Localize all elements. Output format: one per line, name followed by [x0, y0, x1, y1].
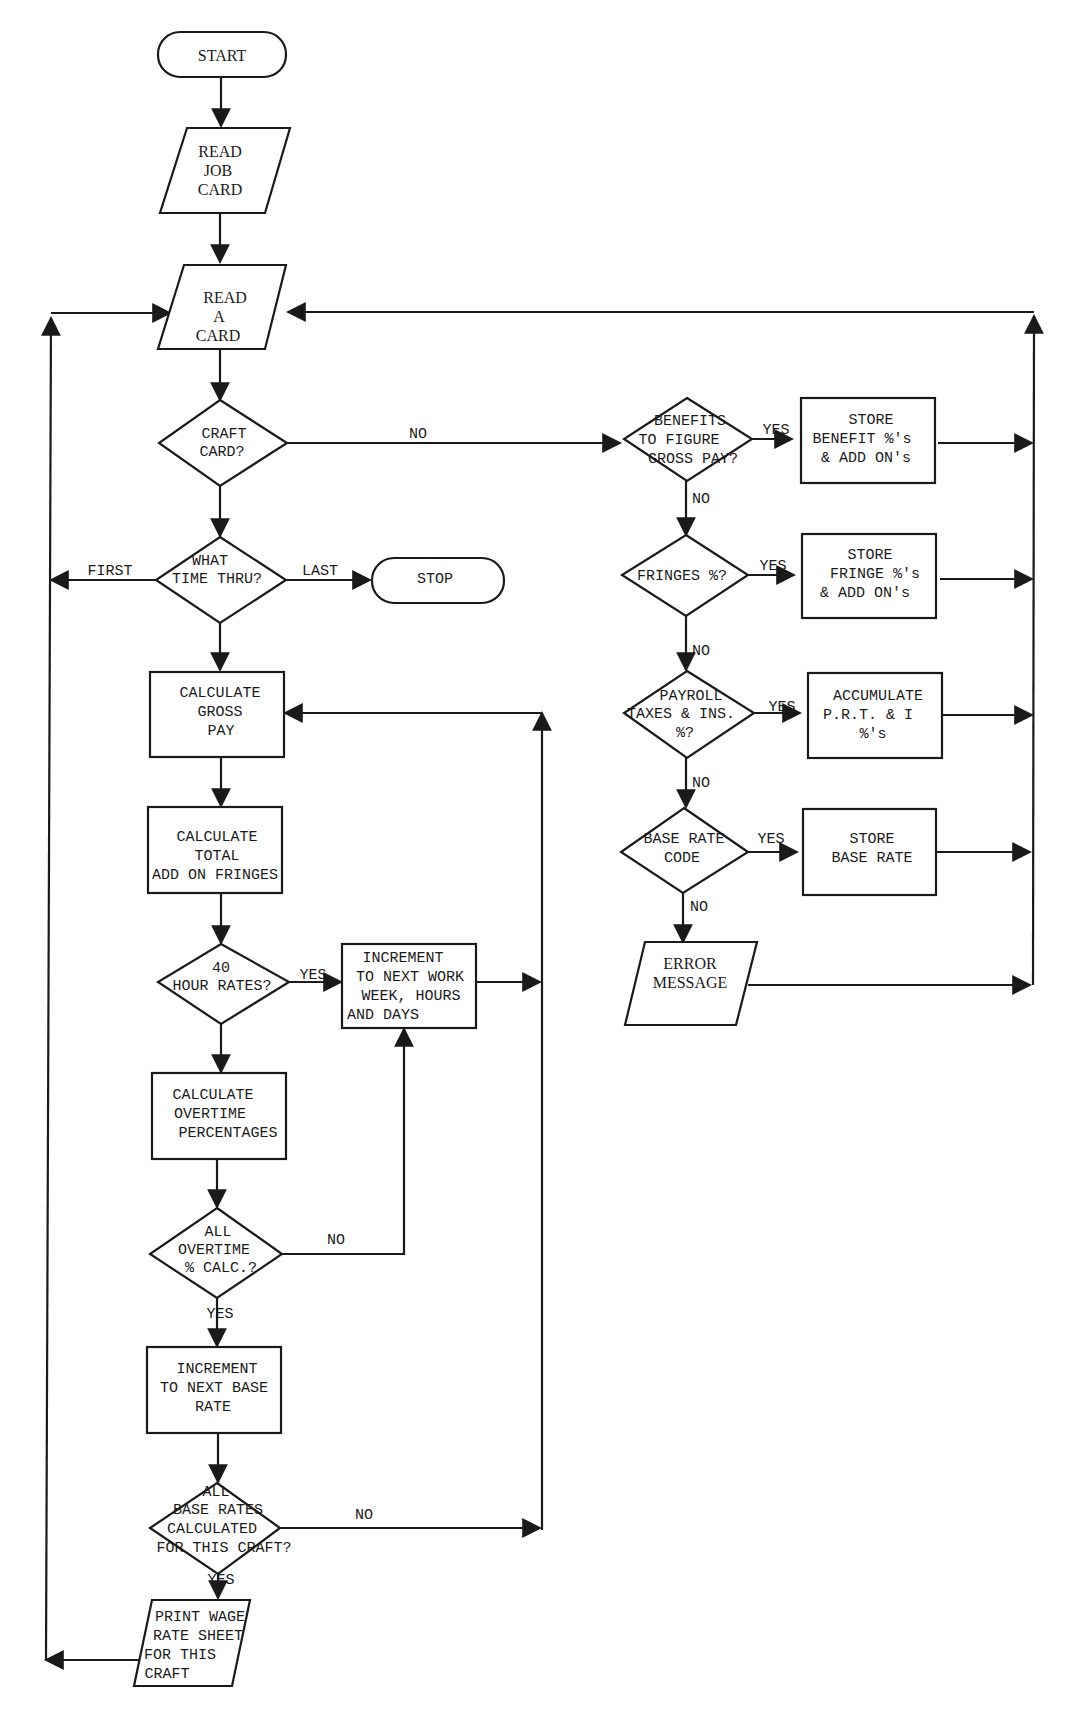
node-storebenefit-line2: BENEFIT %'s: [812, 431, 911, 448]
node-stop-text: STOP: [417, 571, 453, 588]
node-print-wage-sheet: PRINT WAGE RATE SHEET FOR THIS CRAFT: [134, 1600, 250, 1686]
node-fringes-line1: FRINGES %?: [637, 568, 727, 585]
node-what-time-line1: WHAT: [192, 553, 228, 570]
label-fringes-yes: YES: [759, 558, 786, 575]
node-benefits-line2: TO FIGURE: [638, 432, 719, 449]
label-overtime-yes: YES: [206, 1306, 233, 1323]
node-error-line2: MESSAGE: [653, 974, 728, 991]
node-forty-line2: HOUR RATES?: [172, 978, 271, 995]
node-benefits-line3: GROSS PAY?: [648, 451, 738, 468]
node-read-job-card: READ JOB CARD: [160, 128, 290, 213]
node-allbase-line2: BASE RATES: [173, 1502, 263, 1519]
label-last: LAST: [302, 563, 338, 580]
node-benefits-gross-pay[interactable]: BENEFITS TO FIGURE GROSS PAY?: [624, 398, 752, 481]
node-total-line1: CALCULATE: [176, 829, 257, 846]
node-print-line3: FOR THIS: [144, 1647, 216, 1664]
node-gross-line2: GROSS: [197, 704, 242, 721]
node-incweek-line2: TO NEXT WORK: [356, 969, 464, 986]
node-read-job-card-line3: CARD: [198, 181, 242, 198]
edge-right-return-vertical: [1033, 316, 1034, 985]
node-read-a-card: READ A CARD: [158, 265, 286, 349]
node-read-job-card-line2: JOB: [204, 162, 232, 179]
node-increment-base-rate: INCREMENT TO NEXT BASE RATE: [147, 1347, 281, 1433]
node-read-job-card-line1: READ: [198, 143, 242, 160]
node-increment-work-week: INCREMENT TO NEXT WORK WEEK, HOURS AND D…: [342, 944, 476, 1028]
node-allovertime-line1: ALL: [204, 1224, 231, 1241]
node-craft-card-line1: CRAFT: [201, 426, 246, 443]
node-allovertime-line2: OVERTIME: [178, 1242, 250, 1259]
label-forty-yes: YES: [299, 967, 326, 984]
node-storefringe-line2: FRINGE %'s: [830, 566, 920, 583]
node-allbase-line4: FOR THIS CRAFT?: [156, 1540, 291, 1557]
node-error-line1: ERROR: [663, 955, 717, 972]
node-storebase-line1: STORE: [849, 831, 894, 848]
node-allbase-line1: ALL: [202, 1484, 229, 1501]
node-accumulate-line1: ACCUMULATE: [833, 688, 923, 705]
node-accumulate-line3: %'s: [859, 726, 886, 743]
node-storefringe-line3: & ADD ON's: [820, 585, 910, 602]
node-craft-card-line2: CARD?: [199, 444, 244, 461]
edge-allovertime-no: [282, 1029, 404, 1254]
node-forty-line1: 40: [212, 960, 230, 977]
label-payroll-no: NO: [692, 775, 710, 792]
node-calc-overtime: CALCULATE OVERTIME PERCENTAGES: [152, 1073, 286, 1159]
label-basecode-no: NO: [690, 899, 708, 916]
node-read-a-card-line3: CARD: [196, 327, 240, 344]
label-payroll-yes: YES: [768, 699, 795, 716]
node-accumulate-prt: ACCUMULATE P.R.T. & I %'s: [808, 673, 942, 758]
label-base-rates-no: NO: [355, 1507, 373, 1524]
node-total-line3: ADD ON FRINGES: [152, 867, 278, 884]
node-what-time-thru[interactable]: WHAT TIME THRU?: [156, 537, 286, 623]
node-start-text: START: [198, 47, 247, 64]
node-overtime-line2: OVERTIME: [174, 1106, 246, 1123]
node-store-fringe: STORE FRINGE %'s & ADD ON's: [802, 534, 936, 618]
node-payroll-line2: TAXES & INS.: [627, 706, 735, 723]
node-benefits-line1: BENEFITS: [654, 413, 726, 430]
node-print-line4: CRAFT: [144, 1666, 189, 1683]
node-incweek-line4: AND DAYS: [347, 1007, 419, 1024]
node-overtime-line3: PERCENTAGES: [178, 1125, 277, 1142]
node-stop: STOP: [372, 558, 504, 603]
node-read-a-card-line1: READ: [203, 289, 247, 306]
node-payroll-taxes[interactable]: PAYROLL TAXES & INS. %?: [624, 671, 754, 758]
label-benefits-yes: YES: [762, 422, 789, 439]
node-allbase-line3: CALCULATED: [167, 1521, 257, 1538]
node-base-rate-code[interactable]: BASE RATE CODE: [621, 808, 748, 893]
node-allovertime-line3: % CALC.?: [185, 1260, 257, 1277]
node-storebenefit-line1: STORE: [848, 412, 893, 429]
node-craft-card[interactable]: CRAFT CARD?: [159, 400, 287, 486]
label-base-rates-yes: YES: [207, 1572, 234, 1589]
node-all-overtime-calc[interactable]: ALL OVERTIME % CALC.?: [150, 1208, 282, 1298]
node-store-benefit: STORE BENEFIT %'s & ADD ON's: [801, 398, 935, 483]
node-gross-line3: PAY: [207, 723, 234, 740]
label-craft-no: NO: [409, 426, 427, 443]
node-incbase-line3: RATE: [195, 1399, 231, 1416]
node-print-line1: PRINT WAGE: [155, 1609, 245, 1626]
node-forty-hour-rates[interactable]: 40 HOUR RATES?: [158, 944, 289, 1024]
node-storebenefit-line3: & ADD ON's: [821, 450, 911, 467]
node-incbase-line1: INCREMENT: [176, 1361, 257, 1378]
node-print-line2: RATE SHEET: [153, 1628, 243, 1645]
node-gross-line1: CALCULATE: [179, 685, 260, 702]
node-calc-gross-pay: CALCULATE GROSS PAY: [150, 672, 284, 757]
label-first: FIRST: [87, 563, 132, 580]
node-fringes-pct[interactable]: FRINGES %?: [622, 535, 748, 616]
node-basecode-line1: BASE RATE: [643, 831, 724, 848]
node-basecode-line2: CODE: [664, 850, 700, 867]
edge-left-return-vertical: [46, 318, 51, 1660]
node-overtime-line1: CALCULATE: [172, 1087, 253, 1104]
node-all-base-rates-calc[interactable]: ALL BASE RATES CALCULATED FOR THIS CRAFT…: [150, 1483, 292, 1574]
node-payroll-line3: %?: [676, 725, 694, 742]
node-incweek-line1: INCREMENT: [362, 950, 443, 967]
node-accumulate-line2: P.R.T. & I: [823, 707, 913, 724]
node-total-line2: TOTAL: [194, 848, 239, 865]
node-calc-total-addon: CALCULATE TOTAL ADD ON FRINGES: [148, 807, 282, 893]
node-what-time-line2: TIME THRU?: [172, 571, 262, 588]
label-fringes-no: NO: [692, 643, 710, 660]
flowchart-canvas: NO FIRST LAST YES NO YES NO YES YES NO Y…: [0, 0, 1076, 1716]
node-read-a-card-line2: A: [213, 308, 225, 325]
label-benefits-no: NO: [692, 491, 710, 508]
node-storefringe-line1: STORE: [847, 547, 892, 564]
node-payroll-line1: PAYROLL: [659, 688, 722, 705]
node-error-message: ERROR MESSAGE: [625, 942, 757, 1025]
